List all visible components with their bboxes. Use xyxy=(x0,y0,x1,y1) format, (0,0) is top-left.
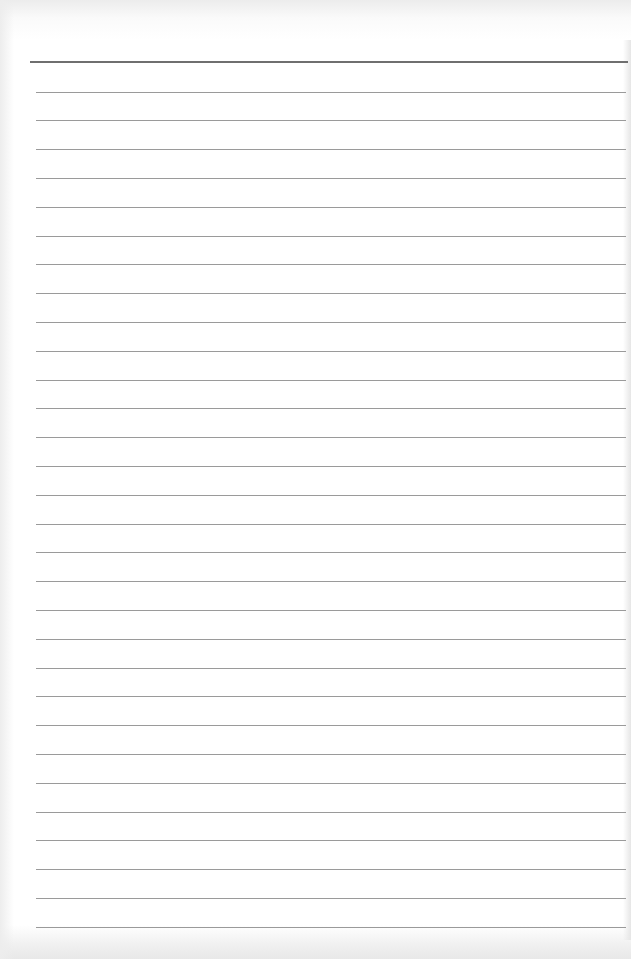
ruled-line xyxy=(36,92,626,93)
ruled-line xyxy=(36,437,626,438)
ruled-line xyxy=(36,696,626,697)
ruled-line xyxy=(36,783,626,784)
ruled-line xyxy=(36,668,626,669)
ruled-line xyxy=(36,927,626,928)
ruled-line xyxy=(36,610,626,611)
ruled-line xyxy=(36,149,626,150)
ruled-line xyxy=(36,466,626,467)
ruled-line xyxy=(36,236,626,237)
ruled-line xyxy=(36,351,626,352)
ruled-line xyxy=(36,207,626,208)
ruled-line xyxy=(36,408,626,409)
header-rule xyxy=(30,61,628,63)
ruled-line xyxy=(36,725,626,726)
page-right-shadow xyxy=(623,40,631,940)
lined-paper-page xyxy=(0,0,631,959)
ruled-line xyxy=(36,754,626,755)
ruled-line xyxy=(36,639,626,640)
ruled-line xyxy=(36,322,626,323)
ruled-line xyxy=(36,581,626,582)
ruled-line xyxy=(36,380,626,381)
ruled-line xyxy=(36,898,626,899)
page-left-shadow xyxy=(0,0,14,959)
ruled-line xyxy=(36,264,626,265)
ruled-line xyxy=(36,178,626,179)
ruled-line xyxy=(36,524,626,525)
ruled-line xyxy=(36,552,626,553)
ruled-line xyxy=(36,120,626,121)
ruled-line xyxy=(36,293,626,294)
ruled-line xyxy=(36,495,626,496)
ruled-line xyxy=(36,812,626,813)
ruled-line xyxy=(36,869,626,870)
ruled-line xyxy=(36,840,626,841)
